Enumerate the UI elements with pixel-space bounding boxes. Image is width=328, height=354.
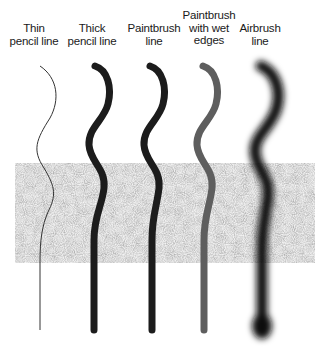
strokes-illustration	[0, 0, 328, 354]
